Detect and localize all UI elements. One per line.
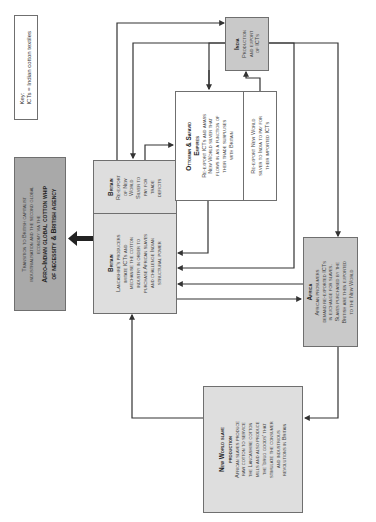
new-world-title-1: New World slave: [218, 421, 226, 478]
britain-main-line: industry in order to: [136, 234, 143, 293]
ottoman-reexport-box: Re-export New World silver to India to p…: [243, 91, 277, 201]
africa-line: demand re-exported ICTs: [321, 261, 328, 324]
transition-title-2: of necessity & British agency: [50, 186, 59, 283]
ottoman-box: Ottoman & Safavid Empires Re-export ICTs…: [175, 91, 244, 201]
africa-title: Africa: [306, 261, 314, 324]
new-world-line: stimulate the consumer: [268, 421, 275, 478]
africa-line: in exchange for slaves.: [328, 261, 335, 324]
key-entry: ICTs = Indian cotton textiles: [26, 31, 33, 105]
ottoman-lower-line: silver to India to pay for: [257, 116, 264, 176]
new-world-line: raw cotton to service: [240, 421, 247, 478]
britain-reexport-line: Silver to: [136, 175, 143, 200]
key-box: Key: ICTs = Indian cotton textiles: [14, 15, 38, 120]
transition-title-1: Afro-Indian global cotton whip: [42, 186, 51, 283]
ottoman-line: New World silver that: [207, 114, 214, 178]
britain-main-line: mechanise the cotton: [129, 234, 136, 293]
india-line: and export: [248, 30, 255, 58]
ottoman-title-1: Ottoman & Safavid: [185, 114, 193, 178]
new-world-line: African slaves produce: [234, 421, 241, 478]
ottoman-line: Re-export ICTs and amass: [200, 114, 207, 178]
ottoman-lower-line: Re-export New World: [250, 116, 257, 176]
new-world-line: mills and also produce: [254, 421, 261, 478]
new-world-line: and industrious: [274, 421, 281, 478]
new-world-line: revolutions in Britain: [281, 421, 288, 478]
britain-reexport-line: deficits: [156, 175, 163, 200]
ottoman-line: their trade surpluses: [221, 114, 228, 178]
new-world-line: the Lancashire cotton: [247, 421, 254, 478]
key-title: Key:: [19, 31, 26, 105]
india-line: of ICTs: [254, 30, 261, 58]
new-world-title-2: production: [226, 421, 234, 478]
africa-box: Africa African prosumers demand re-expor…: [303, 237, 358, 347]
ottoman-title-2: Empires: [192, 114, 200, 178]
britain-main-line: structural power: [156, 234, 163, 293]
ottoman-lower-line: their imported ICTs: [263, 116, 270, 176]
britain-reexport-box: Britain Re-export of New World Silver to…: [93, 160, 177, 214]
india-line: Production: [241, 30, 248, 58]
africa-line: to the New World: [348, 261, 355, 324]
ottoman-line: with Britain: [228, 114, 235, 178]
transition-box: Transition to British capitalist industr…: [14, 157, 66, 311]
ottoman-line: flows in as a function of: [214, 114, 221, 178]
india-title: India: [233, 30, 241, 58]
britain-main-box: Britain Lancashire's producers imitate I…: [93, 213, 177, 314]
india-box: India Production and export of ICTs: [225, 17, 269, 71]
new-world-line: the 'drug goods' that: [261, 421, 268, 478]
new-world-box: New World slave production African slave…: [203, 386, 303, 513]
